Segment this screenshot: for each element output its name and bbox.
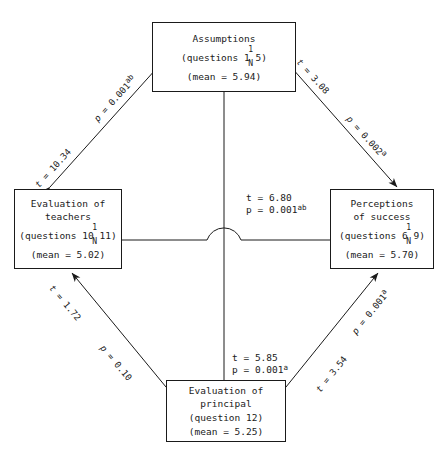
- node-evaluation-of-teachers-mean: (mean = 5.02): [31, 248, 105, 261]
- node-evaluation-of-principal-mean: (mean = 5.25): [189, 425, 263, 438]
- edge-stat-p: p = 0.001a: [232, 364, 288, 376]
- edge-stat-p-superscript: a: [283, 363, 288, 372]
- edge-stat-p-superscript: ab: [297, 203, 306, 212]
- node-evaluation-of-principal[interactable]: Evaluation of principal (question 12) (m…: [166, 380, 286, 442]
- edge-stat-t: t = 5.85: [232, 352, 288, 364]
- node-perceptions-of-success-mean: (mean = 5.70): [345, 248, 419, 261]
- node-perceptions-of-success[interactable]: Perceptions of success (questions 61N 9)…: [330, 189, 434, 269]
- node-evaluation-of-principal-questions: (question 12): [189, 411, 263, 424]
- edge-line-teachers-assumptions: [50, 59, 165, 187]
- questions-prefix: (questions 10: [19, 230, 93, 241]
- edge-stats-assumptions-principal: t = 5.85 p = 0.001a: [232, 352, 288, 376]
- node-assumptions-questions: (questions 11N 5): [181, 51, 267, 64]
- edge-stat-p: p = 0.001ab: [246, 204, 307, 216]
- node-perceptions-of-success-questions: (questions 61N 9): [339, 229, 425, 242]
- questions-suffix: 11): [99, 230, 116, 241]
- edge-stats-teachers-perceptions: t = 6.80 p = 0.001ab: [246, 192, 307, 216]
- node-evaluation-of-principal-title: Evaluation of principal: [189, 384, 263, 410]
- node-assumptions-title: Assumptions: [193, 32, 256, 45]
- node-evaluation-of-teachers[interactable]: Evaluation of teachers (questions 101N 1…: [14, 189, 122, 269]
- node-evaluation-of-teachers-questions: (questions 101N 11): [19, 229, 116, 242]
- node-assumptions[interactable]: Assumptions (questions 11N 5) (mean = 5.…: [152, 22, 296, 92]
- node-evaluation-of-teachers-title: Evaluation of teachers: [31, 197, 105, 223]
- node-perceptions-of-success-title: Perceptions of success: [351, 197, 414, 223]
- questions-suffix: 9): [413, 230, 424, 241]
- questions-prefix: (questions 1: [181, 52, 250, 63]
- questions-prefix: (questions 6: [339, 230, 408, 241]
- edge-line-assumptions-perceptions: [284, 59, 397, 187]
- edge-line-teachers-perceptions: [122, 228, 330, 240]
- node-assumptions-mean: (mean = 5.94): [187, 70, 261, 83]
- questions-suffix: 5): [255, 52, 266, 63]
- path-diagram: Assumptions (questions 11N 5) (mean = 5.…: [0, 0, 448, 461]
